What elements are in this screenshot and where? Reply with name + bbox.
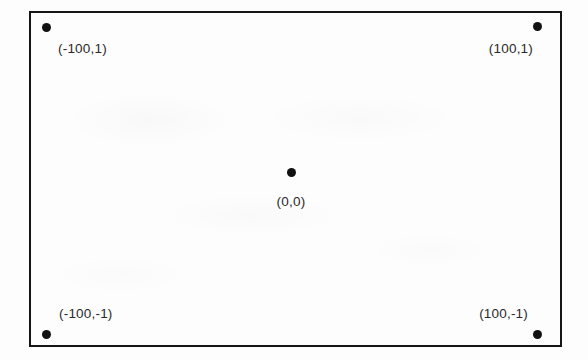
data-point-bottom-left: [42, 330, 51, 339]
data-point-label-bottom-right: (100,-1): [479, 307, 528, 321]
data-point-top-left: [42, 23, 51, 32]
data-point-bottom-right: [533, 330, 542, 339]
scatter-plot-figure: (-100,1) (100,1) (0,0) (-100,-1) (100,-1…: [0, 0, 588, 360]
data-point-center: [287, 168, 296, 177]
data-point-label-center: (0,0): [277, 195, 306, 209]
plot-frame-border: [29, 11, 562, 347]
data-point-top-right: [533, 22, 542, 31]
data-point-label-top-right: (100,1): [489, 42, 533, 56]
data-point-label-top-left: (-100,1): [58, 42, 107, 56]
data-point-label-bottom-left: (-100,-1): [59, 307, 113, 321]
